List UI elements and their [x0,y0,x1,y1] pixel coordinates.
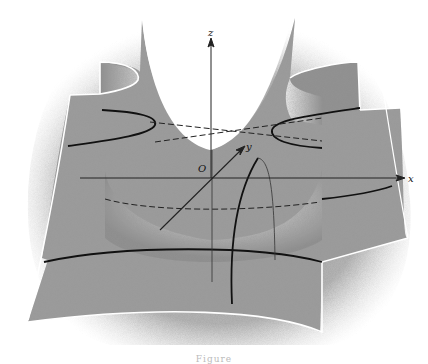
figure-caption: Figure [0,354,428,364]
x-axis-label: x [408,173,414,184]
z-axis-label: z [207,27,214,38]
surface-diagram: z x y O [0,0,428,364]
origin-label: O [198,163,206,174]
y-axis-label: y [245,141,252,152]
